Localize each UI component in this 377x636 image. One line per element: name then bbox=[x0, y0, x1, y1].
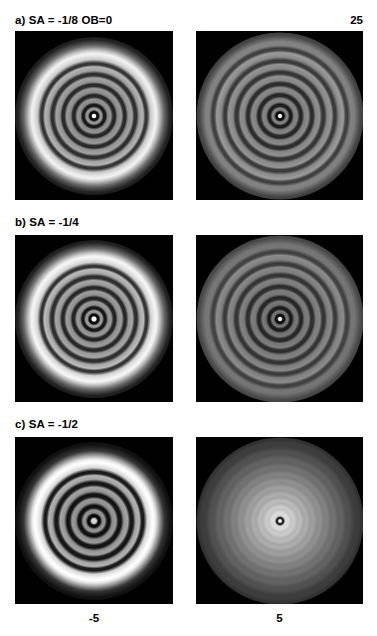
psf-panel-b-right bbox=[196, 235, 363, 402]
row-label-c: c) SA = -1/2 bbox=[15, 418, 78, 430]
row-label-a: a) SA = -1/8 OB=0 bbox=[15, 14, 112, 26]
psf-panel-c-left bbox=[15, 437, 173, 604]
psf-panel-a-left bbox=[15, 31, 173, 200]
corner-label-defocus-25: 25 bbox=[350, 14, 363, 26]
psf-pattern bbox=[15, 37, 173, 195]
psf-figure: a) SA = -1/8 OB=0 25 b) SA = -1/4 c) SA … bbox=[0, 0, 377, 636]
column-axis-label-left: -5 bbox=[15, 612, 173, 624]
psf-pattern bbox=[196, 32, 363, 199]
psf-pattern bbox=[15, 442, 173, 600]
psf-panel-b-left bbox=[15, 235, 173, 402]
psf-panel-a-right bbox=[196, 31, 363, 200]
psf-pattern bbox=[15, 240, 173, 398]
psf-panel-c-right bbox=[196, 437, 363, 604]
psf-pattern bbox=[196, 437, 363, 604]
psf-pattern bbox=[196, 235, 363, 402]
column-axis-label-right: 5 bbox=[196, 612, 363, 624]
row-label-b: b) SA = -1/4 bbox=[15, 216, 79, 228]
